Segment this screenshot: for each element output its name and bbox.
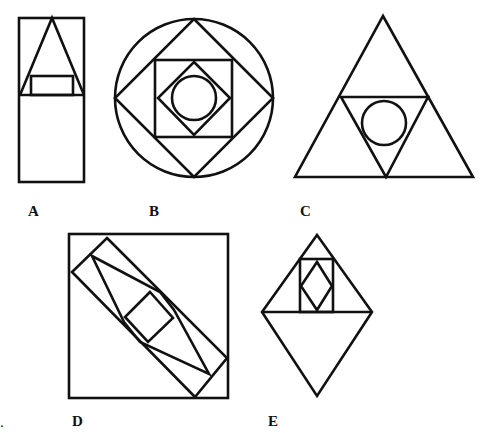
label-e: E — [268, 413, 278, 430]
figure-b-outer-circle — [115, 19, 273, 177]
figure-a-inner-rect — [31, 76, 73, 95]
figures-canvas — [0, 0, 492, 433]
figure-c — [295, 16, 473, 177]
figure-a-outer-rect — [19, 18, 84, 182]
label-b: B — [149, 203, 159, 220]
figure-b — [115, 19, 273, 177]
figure-e-rect — [300, 259, 333, 312]
figure-a — [19, 18, 84, 182]
figure-c-circle — [362, 101, 406, 145]
figure-b-inner-diamond — [158, 62, 230, 135]
figure-b-square — [155, 60, 232, 137]
figure-b-inner-circle — [172, 76, 216, 120]
figure-d-elongated-shape — [92, 256, 209, 374]
label-d: D — [72, 413, 83, 430]
figure-c-inner-triangle — [341, 97, 428, 177]
figure-e-inner-diamond — [301, 262, 332, 310]
label-c: C — [300, 203, 311, 220]
stray-mark: . — [0, 414, 4, 431]
figure-d — [69, 234, 228, 398]
label-a: A — [28, 203, 39, 220]
figure-e — [262, 235, 372, 396]
figure-a-triangle — [20, 18, 84, 95]
